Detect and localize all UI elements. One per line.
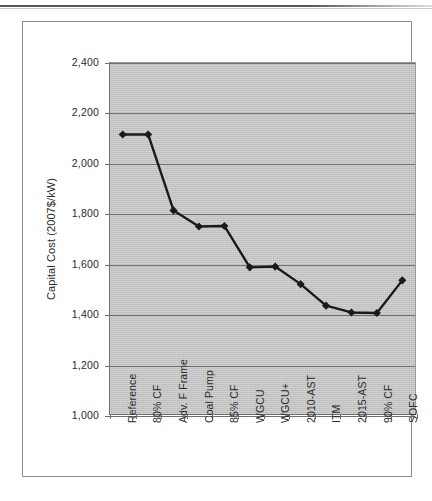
data-point-marker	[144, 130, 152, 138]
y-tick-label: 1,800	[72, 207, 99, 219]
x-tick-label: 90% CF	[382, 384, 394, 423]
data-point-marker	[347, 308, 355, 316]
chart-frame: Capital Cost (2007$/kW) 2,4002,2002,0001…	[22, 21, 412, 477]
x-tick-label: 2015-AST	[356, 375, 368, 423]
y-tick-label: 2,400	[72, 56, 99, 68]
page-top-rule	[0, 5, 432, 7]
y-tick-label: 1,200	[72, 359, 99, 371]
x-tick-mark	[110, 414, 111, 419]
x-tick-label: 85% CF	[228, 384, 240, 423]
x-tick-label: WGCU	[254, 389, 266, 423]
page-top-rule-secondary	[0, 8, 432, 9]
series-line	[123, 134, 403, 313]
y-tick-label: 2,000	[72, 157, 99, 169]
y-tick-label: 1,400	[72, 308, 99, 320]
data-point-marker	[119, 130, 127, 138]
x-tick-label: 80% CF	[151, 384, 163, 423]
x-tick-label: Reference	[126, 374, 138, 423]
x-tick-label: Adv. F Frame	[177, 359, 189, 423]
y-axis-title: Capital Cost (2007$/kW)	[45, 178, 57, 300]
y-tick-label: 1,000	[72, 409, 99, 421]
capital-cost-series	[110, 63, 415, 414]
scanned-page: Capital Cost (2007$/kW) 2,4002,2002,0001…	[0, 0, 432, 501]
x-tick-label: ITM	[330, 405, 342, 423]
plot-area	[109, 62, 416, 415]
x-tick-label: Coal Pump	[203, 370, 215, 423]
y-tick-label: 2,200	[72, 106, 99, 118]
x-tick-label: SOFC	[407, 393, 419, 423]
x-tick-label: WGCU+	[279, 383, 291, 423]
y-tick-label: 1,600	[72, 258, 99, 270]
x-tick-label: 2010-AST	[305, 375, 317, 423]
